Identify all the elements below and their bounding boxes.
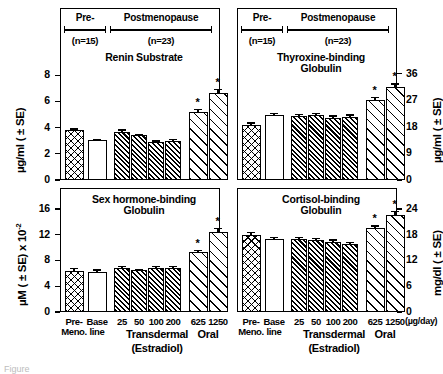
significance-star-bottom-right-7: *: [393, 201, 397, 207]
significance-star-bottom-left-7: *: [216, 218, 220, 224]
bar-top-left-1[interactable]: [88, 140, 107, 180]
errorbar-cap-top-left-5: [169, 139, 177, 140]
bar-top-left-5[interactable]: [165, 141, 181, 180]
bar-bottom-right-4[interactable]: [325, 242, 341, 312]
ytick-label-bottom-left-1: 4: [30, 279, 50, 291]
ytick-top-left-2: [55, 127, 60, 128]
errorbar-cap-bottom-left-2: [118, 266, 126, 267]
bar-bottom-right-5[interactable]: [342, 244, 358, 312]
significance-star-top-left-7: *: [216, 79, 220, 85]
bar-bottom-left-6[interactable]: [189, 252, 208, 312]
panel-title-bottom-right: Cortisol-binding Globulin: [253, 194, 389, 216]
bar-top-right-2[interactable]: [291, 116, 307, 180]
ytick-label-top-right-4: 36: [406, 67, 426, 79]
header-post-n-0: (n=23): [110, 35, 212, 46]
errorbar-cap-bottom-right-7: [391, 211, 399, 212]
ytick-bottom-right-4: [397, 208, 402, 209]
errorbar-cap-bottom-left-5: [169, 266, 177, 267]
xgroup-transdermal-bottom-left: Transdermal: [122, 328, 192, 340]
errorbar-cap-bottom-right-5: [346, 242, 354, 243]
ytick-label-bottom-right-2: 12: [406, 253, 426, 265]
bar-bottom-right-7[interactable]: [386, 215, 405, 312]
bracket-pre-1: [241, 26, 283, 32]
errorbar-cap-top-left-7: [214, 89, 222, 90]
xgroup-transdermal-bottom-right: Transdermal: [299, 328, 369, 340]
ytick-label-top-right-3: 27: [406, 93, 426, 105]
errorbar-cap-bottom-left-1: [93, 269, 101, 270]
header-post-label-1: Postmenopause: [287, 12, 389, 23]
bar-bottom-left-3[interactable]: [131, 270, 147, 312]
ytick-label-top-left-3: 6: [30, 94, 50, 106]
errorbar-cap-bottom-left-0: [70, 268, 78, 269]
bar-bottom-left-7[interactable]: [209, 232, 228, 312]
bar-bottom-left-5[interactable]: [165, 268, 181, 312]
xlabel-bottom-left-1-line2: line: [75, 326, 119, 337]
errorbar-cap-top-left-4: [152, 140, 160, 141]
errorbar-cap-top-right-4: [329, 115, 337, 116]
ytick-label-bottom-left-4: 16: [30, 202, 50, 214]
ytick-label-bottom-right-1: 6: [406, 279, 426, 291]
bar-top-right-0[interactable]: [242, 125, 261, 180]
bar-bottom-left-1[interactable]: [88, 272, 107, 312]
bar-bottom-left-0[interactable]: [65, 271, 84, 312]
errorbar-cap-top-left-0: [70, 128, 78, 129]
header-pre-label-0: Pre-: [58, 12, 112, 23]
bar-bottom-right-2[interactable]: [291, 239, 307, 312]
errorbar-cap-bottom-left-4: [152, 266, 160, 267]
ytick-bottom-left-4: [55, 208, 60, 209]
bar-top-right-3[interactable]: [308, 115, 324, 180]
ytick-top-left-1: [55, 153, 60, 154]
ytick-label-top-left-2: 4: [30, 121, 50, 133]
yaxis-title-bottom-right: mg/dl ( ± SE): [431, 230, 443, 296]
errorbar-cap-top-left-2: [118, 129, 126, 130]
ytick-top-left-3: [55, 101, 60, 102]
bar-top-left-3[interactable]: [131, 135, 147, 180]
bar-top-left-6[interactable]: [189, 112, 208, 180]
bracket-post-0: [110, 26, 212, 32]
significance-star-top-right-6: *: [373, 87, 377, 93]
ytick-label-top-right-0: 0: [406, 173, 426, 185]
xgroup-oral-bottom-left: Oral: [184, 328, 232, 340]
errorbar-cap-top-right-5: [346, 114, 354, 115]
ytick-top-left-4: [55, 75, 60, 76]
bar-top-left-0[interactable]: [65, 130, 84, 180]
ytick-label-top-left-4: 8: [30, 68, 50, 80]
header-post-label-0: Postmenopause: [110, 12, 212, 23]
bar-top-right-6[interactable]: [366, 100, 385, 180]
bar-bottom-right-6[interactable]: [366, 228, 385, 312]
bar-top-right-1[interactable]: [265, 115, 284, 180]
bar-top-right-4[interactable]: [325, 118, 341, 180]
errorbar-cap-bottom-right-4: [329, 239, 337, 240]
ytick-label-top-left-0: 0: [30, 173, 50, 185]
significance-star-bottom-left-6: *: [196, 240, 200, 246]
ytick-bottom-left-1: [55, 286, 60, 287]
ytick-label-top-right-2: 18: [406, 120, 426, 132]
errorbar-cap-bottom-right-3: [312, 238, 320, 239]
bar-top-left-4[interactable]: [148, 142, 164, 180]
errorbar-cap-top-left-3: [135, 134, 143, 135]
ytick-label-top-right-1: 9: [406, 146, 426, 158]
bar-bottom-right-3[interactable]: [308, 240, 324, 312]
significance-star-top-right-7: *: [393, 73, 397, 79]
bar-top-left-2[interactable]: [114, 132, 130, 180]
bar-top-right-7[interactable]: [386, 87, 405, 180]
panel-title-top-left: Renin Substrate: [76, 52, 212, 63]
header-pre-label-1: Pre-: [235, 12, 289, 23]
errorbar-cap-bottom-left-7: [214, 228, 222, 229]
panel-title-bottom-left: Sex hormone-binding Globulin: [76, 194, 212, 216]
errorbar-cap-top-right-1: [270, 113, 278, 114]
ytick-bottom-left-3: [55, 234, 60, 235]
bar-bottom-right-1[interactable]: [265, 239, 284, 312]
header-post-n-1: (n=23): [287, 35, 389, 46]
xgroup-oral-bottom-right: Oral: [361, 328, 409, 340]
errorbar-cap-top-right-7: [391, 83, 399, 84]
panel-title-top-right: Thyroxine-binding Globulin: [253, 52, 389, 74]
bar-bottom-left-2[interactable]: [114, 268, 130, 312]
bar-bottom-left-4[interactable]: [148, 268, 164, 312]
significance-star-bottom-right-6: *: [373, 215, 377, 221]
bar-top-left-7[interactable]: [209, 93, 228, 180]
bar-top-right-5[interactable]: [342, 117, 358, 180]
yaxis-title-top-right: µg/ml ( ± SE): [431, 98, 443, 163]
bar-bottom-right-0[interactable]: [242, 235, 261, 312]
